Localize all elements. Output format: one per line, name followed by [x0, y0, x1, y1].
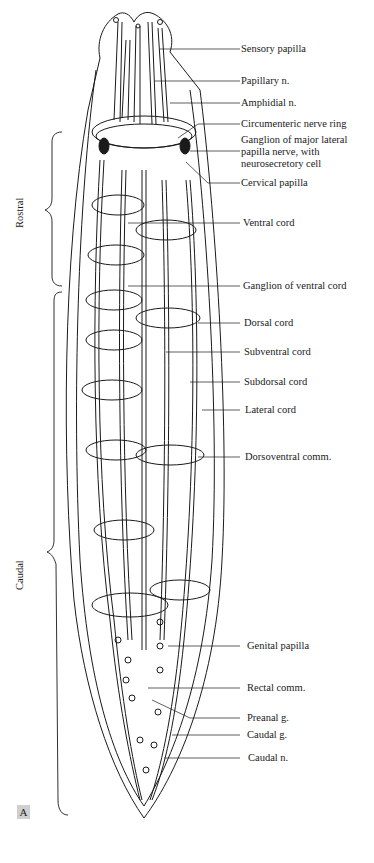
label-rectal-commissure: Rectal comm. — [247, 682, 305, 694]
label-dorsoventral-commissure: Dorsoventral comm. — [245, 451, 331, 463]
panel-letter-badge: A — [17, 805, 30, 819]
rostral-brace — [45, 132, 62, 286]
label-lateral-cord: Lateral cord — [245, 404, 296, 416]
cuticle-inner-line — [77, 70, 215, 806]
label-papillary-nerve: Papillary n. — [241, 75, 289, 87]
label-subdorsal-cord: Subdorsal cord — [244, 376, 307, 388]
caudal-brace — [47, 292, 68, 815]
region-label-caudal: Caudal — [14, 560, 25, 590]
label-caudal-ganglion: Caudal g. — [247, 729, 287, 741]
papillary-nerves — [114, 18, 169, 125]
label-genital-papilla: Genital papilla — [247, 640, 309, 652]
label-sensory-papilla: Sensory papilla — [241, 43, 306, 55]
label-caudal-nerve: Caudal n. — [248, 752, 288, 764]
label-dorsal-cord: Dorsal cord — [244, 317, 293, 329]
circumenteric-nerve-ring — [92, 116, 196, 154]
label-ganglion-ventral-cord: Ganglion of ventral cord — [243, 280, 347, 292]
region-braces — [45, 132, 68, 815]
label-cervical-papilla: Cervical papilla — [241, 177, 308, 189]
label-subventral-cord: Subventral cord — [244, 346, 311, 358]
genital-papillae — [115, 619, 163, 773]
region-label-rostral: Rostral — [14, 198, 25, 228]
longitudinal-cords — [95, 160, 197, 800]
body-outline — [66, 12, 224, 818]
label-circumenteric-nerve-ring: Circumenteric nerve ring — [241, 118, 347, 130]
label-amphidial-nerve: Amphidial n. — [241, 97, 296, 109]
label-ventral-cord: Ventral cord — [243, 217, 295, 229]
label-ganglion-major-lateral-papilla: Ganglion of major lateral papilla nerve,… — [241, 134, 371, 170]
label-preanal-ganglion: Preanal g. — [247, 712, 289, 724]
